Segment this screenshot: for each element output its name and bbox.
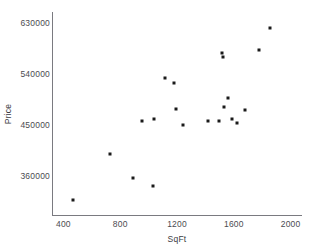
data-point — [163, 77, 166, 80]
data-point — [131, 177, 134, 180]
x-axis-tick-label: 400 — [56, 219, 71, 229]
data-point — [181, 124, 184, 127]
data-point — [217, 119, 220, 122]
data-point — [221, 51, 224, 54]
data-point — [244, 109, 247, 112]
x-axis-tick-label: 1200 — [167, 219, 187, 229]
data-point — [269, 26, 272, 29]
x-axis-tick-label: 2000 — [281, 219, 301, 229]
data-point — [222, 56, 225, 59]
data-point — [257, 48, 260, 51]
data-point — [175, 108, 178, 111]
y-axis-tick-label: 540000 — [2, 69, 50, 79]
data-point — [72, 199, 75, 202]
data-point — [227, 96, 230, 99]
x-axis-tick-label: 800 — [113, 219, 128, 229]
scatter-plot-chart: 630000540000450000360000 Price SqFt 4008… — [0, 0, 315, 250]
data-point — [206, 119, 209, 122]
data-point — [109, 152, 112, 155]
data-point — [236, 121, 239, 124]
x-axis-tick-label: 1600 — [224, 219, 244, 229]
data-point — [153, 118, 156, 121]
x-axis-title: SqFt — [52, 234, 302, 244]
data-point — [151, 184, 154, 187]
plot-area — [52, 12, 302, 216]
data-point — [230, 117, 233, 120]
y-axis-tick-label: 630000 — [2, 18, 50, 28]
data-point — [222, 105, 225, 108]
data-point — [173, 81, 176, 84]
y-axis-tick-labels: 630000540000450000360000 — [0, 0, 50, 250]
y-axis-title: Price — [3, 104, 13, 124]
y-axis-tick-label: 360000 — [2, 171, 50, 181]
data-point — [141, 119, 144, 122]
